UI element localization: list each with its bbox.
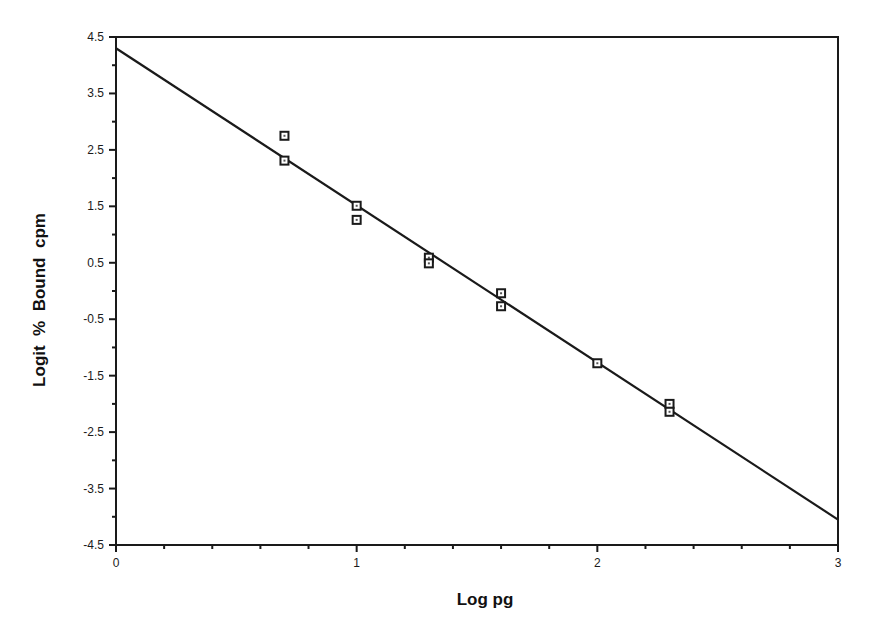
square-marker-dot: [428, 262, 430, 264]
square-marker: [353, 216, 361, 224]
y-tick-label: 0.5: [87, 256, 104, 270]
square-marker: [593, 359, 601, 367]
y-tick-label: 2.5: [87, 143, 104, 157]
square-marker: [353, 202, 361, 210]
fit-line: [116, 48, 838, 519]
square-marker: [497, 302, 505, 310]
regression-line: [116, 48, 838, 519]
x-tick-label: 0: [113, 556, 120, 570]
x-axis: 0123: [113, 545, 842, 570]
y-tick-label: -4.5: [83, 538, 104, 552]
square-marker-dot: [669, 411, 671, 413]
x-tick-label: 2: [594, 556, 601, 570]
square-marker: [666, 408, 674, 416]
square-marker-dot: [283, 160, 285, 162]
y-tick-label: -3.5: [83, 482, 104, 496]
y-tick-label: -0.5: [83, 312, 104, 326]
y-tick-label: -1.5: [83, 369, 104, 383]
x-tick-label: 3: [835, 556, 842, 570]
logit-chart: 0123 4.53.52.51.50.5-0.5-1.5-2.5-3.5-4.5…: [0, 0, 870, 633]
y-axis: 4.53.52.51.50.5-0.5-1.5-2.5-3.5-4.5: [83, 30, 116, 552]
square-marker: [280, 157, 288, 165]
square-marker: [280, 132, 288, 140]
x-tick-label: 1: [353, 556, 360, 570]
y-tick-label: 3.5: [87, 86, 104, 100]
square-marker-dot: [283, 135, 285, 137]
square-marker: [497, 289, 505, 297]
square-marker: [425, 259, 433, 267]
y-axis-title: Logit % Bound cpm: [30, 213, 49, 387]
y-tick-label: 1.5: [87, 199, 104, 213]
y-tick-label: 4.5: [87, 30, 104, 44]
square-marker-dot: [500, 305, 502, 307]
square-marker-dot: [356, 219, 358, 221]
plot-frame: [116, 37, 838, 545]
square-marker: [666, 400, 674, 408]
plot-border: [116, 37, 838, 545]
x-axis-title: Log pg: [457, 590, 514, 609]
square-marker-dot: [356, 205, 358, 207]
square-marker-dot: [596, 362, 598, 364]
square-marker-dot: [669, 403, 671, 405]
square-marker-dot: [500, 292, 502, 294]
y-tick-label: -2.5: [83, 425, 104, 439]
